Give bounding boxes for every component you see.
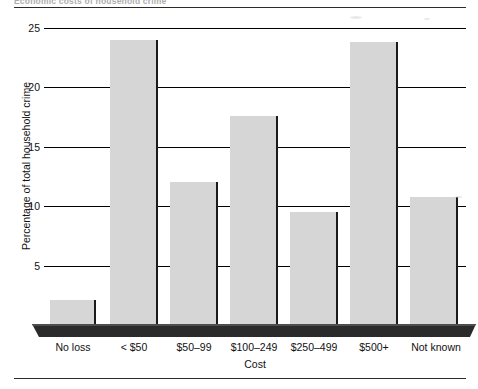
bar-no-loss — [50, 300, 96, 325]
y-tick-label: 20 — [28, 81, 40, 93]
y-tick-label: 25 — [28, 22, 40, 34]
y-tick-label: 10 — [28, 200, 40, 212]
bar-50-99 — [170, 182, 218, 325]
x-tick-label-not-known: Not known — [411, 341, 461, 353]
x-tick-label-50-99: $50–99 — [176, 341, 211, 353]
x-axis-title: Cost — [44, 358, 466, 370]
x-tick-label-no-loss: No loss — [55, 341, 90, 353]
bar-500-plus — [350, 42, 398, 325]
axis-baseline — [32, 324, 476, 337]
bar-100-249 — [230, 116, 278, 325]
x-tick-label-250-499: $250–499 — [291, 341, 338, 353]
x-tick-label-100-249: $100–249 — [231, 341, 278, 353]
scan-speckle — [455, 196, 462, 198]
bar-series — [44, 28, 466, 325]
bar-under-50 — [110, 40, 158, 325]
y-axis-tick-labels: 25 20 15 10 5 — [12, 28, 40, 325]
bar-250-499 — [290, 212, 338, 325]
plot-area — [44, 28, 466, 325]
x-tick-label-500-plus: $500+ — [359, 341, 389, 353]
scan-speckle — [424, 18, 430, 20]
bar-not-known — [410, 197, 458, 325]
y-tick-label: 15 — [28, 141, 40, 153]
scan-speckle — [350, 16, 362, 19]
y-tick-label: 5 — [34, 260, 40, 272]
bar-chart: Percentage of total household crime 25 2… — [0, 0, 478, 389]
chart-page: Economic costs of household crime Percen… — [0, 0, 478, 389]
x-tick-label-under-50: < $50 — [121, 341, 148, 353]
bottom-divider — [14, 378, 466, 379]
x-axis-tick-labels: No loss < $50 $50–99 $100–249 $250–499 $… — [44, 341, 466, 357]
